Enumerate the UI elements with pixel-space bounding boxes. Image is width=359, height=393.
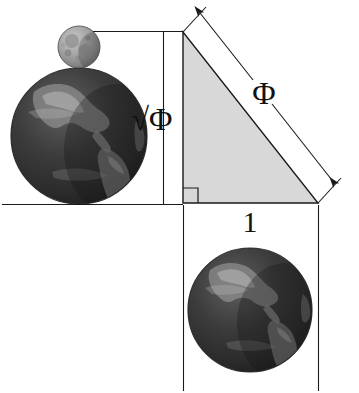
label-vertical-leg: √Φ [132, 101, 173, 137]
golden-triangle [183, 32, 318, 203]
figure-root: √Φ Φ 1 [0, 0, 359, 393]
earth-top-noise [11, 68, 147, 204]
label-horizontal-leg: 1 [243, 205, 258, 238]
earth-top [11, 68, 172, 216]
moon-noise [58, 26, 100, 68]
label-hypotenuse: Φ [252, 75, 275, 111]
earth-bottom-noise [188, 248, 312, 372]
moon-top [58, 26, 110, 72]
witness-line-apex [183, 7, 206, 32]
golden-ratio-diagram: √Φ Φ 1 [0, 0, 359, 393]
earth-bottom [188, 248, 335, 383]
witness-line-bottom [318, 178, 341, 203]
